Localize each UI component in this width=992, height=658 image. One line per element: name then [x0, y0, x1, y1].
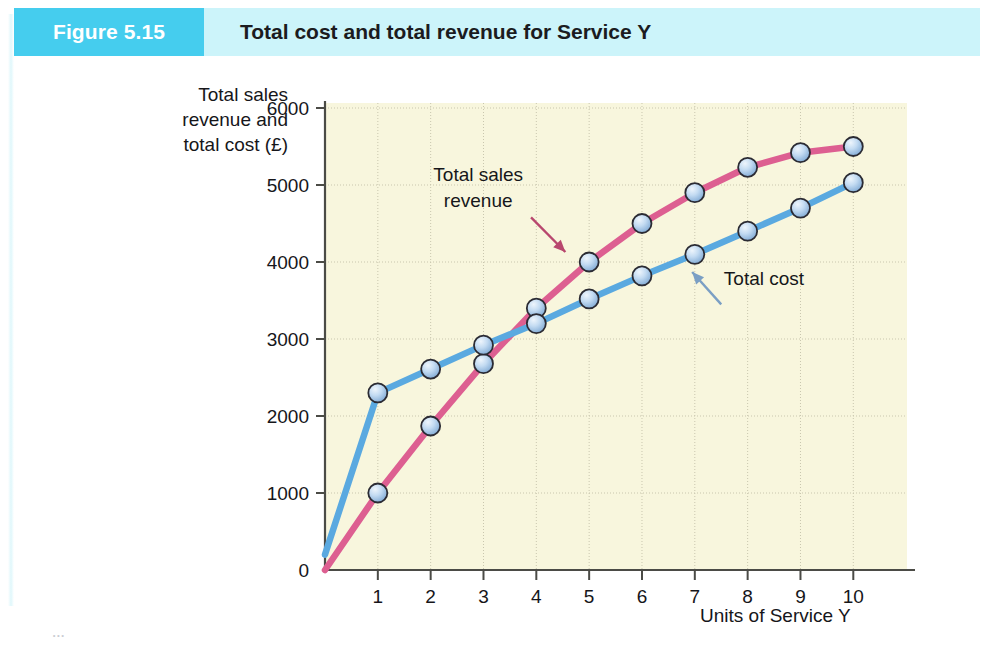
- y-axis-tick-label: 5000: [267, 175, 309, 196]
- data-point-marker: [685, 245, 704, 264]
- page-bleed-strip: ...: [0, 628, 992, 658]
- data-point-circle: [632, 266, 651, 285]
- x-axis-tick-label: 7: [690, 586, 701, 607]
- data-point-marker: [527, 314, 546, 333]
- figure-title: Total cost and total revenue for Service…: [204, 8, 980, 56]
- plot-svg: 010002000300040005000600012345678910Tota…: [0, 60, 992, 620]
- x-axis-tick-label: 8: [742, 586, 753, 607]
- chart-area: Total sales revenue and total cost (£) U…: [0, 60, 992, 620]
- annotation-label: Total sales: [433, 164, 523, 185]
- data-point-circle: [738, 222, 757, 241]
- y-axis-tick-label: 3000: [267, 329, 309, 350]
- data-point-circle: [580, 253, 599, 272]
- y-axis-tick-label: 2000: [267, 406, 309, 427]
- annotation-label: Total cost: [724, 268, 805, 289]
- data-point-circle: [527, 314, 546, 333]
- data-point-circle: [844, 137, 863, 156]
- x-axis-tick-label: 1: [373, 586, 384, 607]
- data-point-marker: [632, 266, 651, 285]
- data-point-circle: [685, 183, 704, 202]
- data-point-circle: [791, 199, 810, 218]
- data-point-circle: [368, 484, 387, 503]
- data-point-marker: [844, 173, 863, 192]
- data-point-marker: [738, 222, 757, 241]
- x-axis-tick-label: 5: [584, 586, 595, 607]
- x-axis-tick-label: 9: [795, 586, 806, 607]
- data-point-circle: [580, 289, 599, 308]
- x-axis-tick-label: 2: [425, 586, 436, 607]
- plot-background: [325, 103, 907, 570]
- data-point-marker: [421, 360, 440, 379]
- x-axis-tick-label: 10: [843, 586, 864, 607]
- data-point-circle: [685, 245, 704, 264]
- data-point-marker: [632, 214, 651, 233]
- data-point-marker: [580, 289, 599, 308]
- data-point-marker: [474, 354, 493, 373]
- data-point-marker: [738, 158, 757, 177]
- y-axis-tick-label: 4000: [267, 252, 309, 273]
- figure-number-box: Figure 5.15: [14, 8, 204, 56]
- data-point-circle: [844, 173, 863, 192]
- figure-card: Figure 5.15 Total cost and total revenue…: [0, 0, 992, 620]
- y-axis-tick-label: 6000: [267, 98, 309, 119]
- data-point-marker: [844, 137, 863, 156]
- data-point-circle: [632, 214, 651, 233]
- page-bleed-text: ...: [52, 628, 952, 642]
- y-axis-tick-label: 1000: [267, 483, 309, 504]
- data-point-marker: [685, 183, 704, 202]
- data-point-circle: [791, 143, 810, 162]
- data-point-marker: [421, 417, 440, 436]
- data-point-circle: [738, 158, 757, 177]
- data-point-circle: [421, 360, 440, 379]
- figure-header-band: Figure 5.15 Total cost and total revenue…: [14, 8, 980, 56]
- y-axis-tick-label: 0: [298, 560, 309, 581]
- annotation-label: revenue: [444, 190, 513, 211]
- data-point-marker: [474, 336, 493, 355]
- data-point-marker: [368, 383, 387, 402]
- data-point-circle: [474, 336, 493, 355]
- figure-number-label: Figure 5.15: [53, 20, 165, 44]
- x-axis-tick-label: 3: [478, 586, 489, 607]
- x-axis-tick-label: 6: [637, 586, 648, 607]
- data-point-circle: [421, 417, 440, 436]
- data-point-marker: [791, 143, 810, 162]
- data-point-marker: [791, 199, 810, 218]
- data-point-circle: [368, 383, 387, 402]
- data-point-marker: [368, 484, 387, 503]
- data-point-marker: [580, 253, 599, 272]
- data-point-circle: [474, 354, 493, 373]
- x-axis-tick-label: 4: [531, 586, 542, 607]
